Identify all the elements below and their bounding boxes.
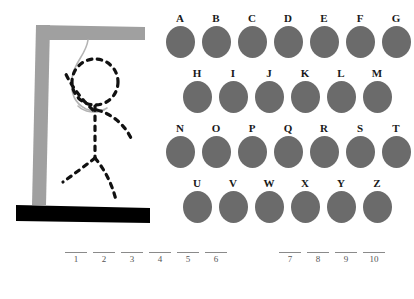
letter-circle[interactable] (327, 191, 356, 223)
letter-circle[interactable] (255, 191, 284, 223)
letter-circle[interactable] (346, 136, 375, 168)
answer-blank[interactable]: 5 (174, 252, 202, 265)
letter-label: H (193, 67, 202, 80)
answer-blank[interactable]: 9 (332, 252, 360, 265)
letter-label: K (301, 67, 310, 80)
letter-label: T (392, 122, 399, 135)
letter-row: A B C D E F G (162, 12, 414, 67)
gallows-panel (0, 0, 160, 240)
answer-blanks: 1 2 3 4 5 6 (0, 252, 414, 265)
letter-circle[interactable] (310, 26, 339, 58)
answer-blank[interactable]: 3 (118, 252, 146, 265)
letter-circle[interactable] (291, 81, 320, 113)
answer-blank[interactable]: 8 (304, 252, 332, 265)
figure-left-leg (63, 158, 95, 182)
blank-line (65, 252, 87, 253)
letter-label: I (231, 67, 235, 80)
letter-circle[interactable] (382, 26, 411, 58)
letter-option-t[interactable]: T (378, 122, 414, 177)
letter-circle[interactable] (183, 191, 212, 223)
letter-circle[interactable] (202, 136, 231, 168)
letter-option-o[interactable]: O (198, 122, 234, 177)
letter-label: A (176, 12, 184, 25)
figure-right-arm (97, 110, 131, 138)
letter-circle[interactable] (291, 191, 320, 223)
letter-option-e[interactable]: E (306, 12, 342, 67)
letter-label: W (264, 177, 275, 190)
letter-circle[interactable] (363, 81, 392, 113)
figure-right-leg (95, 158, 116, 200)
blank-line (363, 252, 385, 253)
blank-line (149, 252, 171, 253)
letter-circle[interactable] (219, 191, 248, 223)
letter-option-j[interactable]: J (251, 67, 287, 122)
letter-label: G (392, 12, 401, 25)
letter-option-q[interactable]: Q (270, 122, 306, 177)
letter-circle[interactable] (238, 26, 267, 58)
letter-option-u[interactable]: U (179, 177, 215, 232)
letter-option-n[interactable]: N (162, 122, 198, 177)
answer-blank[interactable]: 7 (276, 252, 304, 265)
letter-option-r[interactable]: R (306, 122, 342, 177)
letter-option-k[interactable]: K (287, 67, 323, 122)
letter-label: V (229, 177, 237, 190)
letter-circle[interactable] (310, 136, 339, 168)
letter-option-l[interactable]: L (323, 67, 359, 122)
letter-row: H I J K L M (162, 67, 414, 122)
answer-blank[interactable]: 10 (360, 252, 388, 265)
letter-label: Z (373, 177, 380, 190)
letter-label: Q (284, 122, 293, 135)
blank-line (307, 252, 329, 253)
letter-circle[interactable] (183, 81, 212, 113)
letter-grid: A B C D E F G (162, 12, 414, 232)
letter-option-s[interactable]: S (342, 122, 378, 177)
letter-circle[interactable] (363, 191, 392, 223)
letter-option-i[interactable]: I (215, 67, 251, 122)
blank-number: 2 (102, 254, 107, 265)
letter-circle[interactable] (327, 81, 356, 113)
letter-label: Y (337, 177, 345, 190)
letter-circle[interactable] (255, 81, 284, 113)
blank-line (177, 252, 199, 253)
letter-circle[interactable] (346, 26, 375, 58)
letter-label: F (357, 12, 364, 25)
answer-blank[interactable]: 2 (90, 252, 118, 265)
letter-option-h[interactable]: H (179, 67, 215, 122)
letter-option-c[interactable]: C (234, 12, 270, 67)
letter-circle[interactable] (219, 81, 248, 113)
letter-option-z[interactable]: Z (359, 177, 395, 232)
letter-circle[interactable] (274, 26, 303, 58)
blank-number: 9 (344, 254, 349, 265)
letter-option-f[interactable]: F (342, 12, 378, 67)
letter-option-a[interactable]: A (162, 12, 198, 67)
blank-line (121, 252, 143, 253)
letter-label: B (212, 12, 219, 25)
blank-number: 3 (130, 254, 135, 265)
letter-option-d[interactable]: D (270, 12, 306, 67)
letter-option-m[interactable]: M (359, 67, 395, 122)
blank-number: 4 (158, 254, 163, 265)
letter-circle[interactable] (382, 136, 411, 168)
letter-label: S (357, 122, 363, 135)
letter-option-p[interactable]: P (234, 122, 270, 177)
blank-number: 10 (370, 254, 379, 265)
answer-blank[interactable]: 6 (202, 252, 230, 265)
answer-blank[interactable]: 4 (146, 252, 174, 265)
letter-circle[interactable] (202, 26, 231, 58)
letter-circle[interactable] (166, 136, 195, 168)
letter-option-g[interactable]: G (378, 12, 414, 67)
letter-option-x[interactable]: X (287, 177, 323, 232)
letter-circle[interactable] (274, 136, 303, 168)
letter-label: O (212, 122, 221, 135)
letter-option-y[interactable]: Y (323, 177, 359, 232)
letter-label: R (320, 122, 328, 135)
letter-option-b[interactable]: B (198, 12, 234, 67)
answer-blank[interactable]: 1 (62, 252, 90, 265)
letter-option-v[interactable]: V (215, 177, 251, 232)
letter-label: L (337, 67, 344, 80)
letter-circle[interactable] (238, 136, 267, 168)
letter-option-w[interactable]: W (251, 177, 287, 232)
blank-line (93, 252, 115, 253)
letter-circle[interactable] (166, 26, 195, 58)
letter-row: N O P Q R S T (162, 122, 414, 177)
